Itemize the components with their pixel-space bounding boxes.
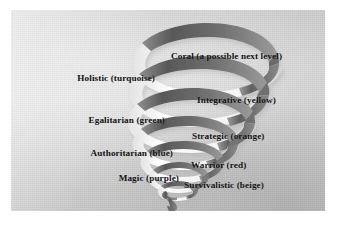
paper-panel: Coral (a possible next level) Holistic (… (11, 10, 325, 211)
level-label-strategic: Strategic (orange) (192, 131, 264, 142)
level-label-authoritarian: Authoritarian (blue) (19, 148, 173, 159)
level-label-magic: Magic (purple) (19, 173, 179, 184)
figure-root: Coral (a possible next level) Holistic (… (0, 0, 337, 227)
level-label-egalitarian: Egalitarian (green) (19, 115, 165, 126)
level-label-survivalistic: Survivalistic (beige) (184, 180, 264, 191)
level-label-warrior: Warrior (red) (191, 160, 246, 171)
level-label-integrative: Integrative (yellow) (197, 95, 276, 106)
level-label-holistic: Holistic (turquoise) (19, 73, 155, 84)
level-label-coral: Coral (a possible next level) (171, 51, 282, 62)
